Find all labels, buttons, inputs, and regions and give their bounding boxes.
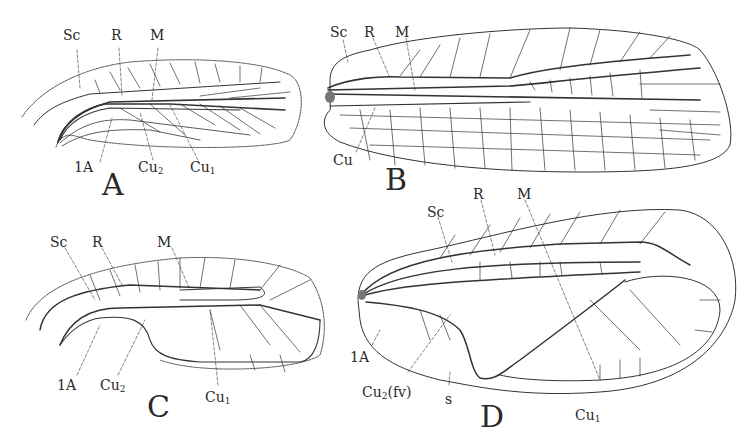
label-c-cu2: Cu2 [100,378,125,394]
wing-c-drawing [26,248,324,385]
label-a-cu2: Cu2 [138,160,163,176]
label-d-cu1-base: Cu [575,407,595,423]
panel-label-a: A [102,170,124,200]
label-a-cu2-sub: 2 [158,166,164,176]
label-c-cu1-sub: 1 [225,396,231,406]
label-c-cu2-sub: 2 [120,384,126,394]
panel-label-d: D [480,402,504,432]
label-c-1a: 1A [57,378,76,392]
panel-label-c: C [147,392,170,422]
panel-label-b: B [385,165,407,195]
label-a-m: M [150,28,164,42]
label-d-cu2-base: Cu [362,384,382,400]
label-d-sc: Sc [427,205,444,219]
label-a-cu1-sub: 1 [210,166,216,176]
label-a-cu2-base: Cu [138,159,158,175]
label-d-cu2-suffix: (fv) [387,384,411,400]
label-b-cu: Cu [333,153,353,167]
label-d-cu1-sub: 1 [595,414,601,424]
label-b-m: M [395,25,409,39]
label-d-m: M [517,187,531,201]
label-a-cu1: Cu1 [190,160,215,176]
label-c-m: M [157,235,171,249]
label-d-cu1: Cu1 [575,408,600,424]
label-d-s: s [445,392,452,406]
wing-a-drawing [22,48,301,162]
label-a-r: R [111,28,122,42]
label-a-cu1-base: Cu [190,159,210,175]
label-c-sc: Sc [50,235,67,249]
label-d-1a: 1A [350,350,369,364]
wing-d-drawing [358,200,736,394]
label-c-cu1-base: Cu [205,389,225,405]
label-d-cu2: Cu2(fv) [362,385,411,401]
label-b-sc: Sc [330,25,347,39]
label-c-cu2-base: Cu [100,377,120,393]
label-a-1a: 1A [74,160,93,174]
label-d-r: R [473,187,484,201]
label-a-sc: Sc [63,28,80,42]
wing-b-drawing [324,28,731,172]
label-c-cu1: Cu1 [205,390,230,406]
label-c-r: R [92,235,103,249]
label-b-r: R [364,25,375,39]
